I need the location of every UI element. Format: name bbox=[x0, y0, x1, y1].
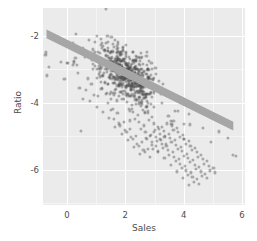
data-point bbox=[122, 121, 125, 124]
data-point bbox=[95, 77, 98, 80]
data-point bbox=[155, 72, 158, 75]
data-point bbox=[144, 95, 147, 98]
data-point bbox=[143, 151, 146, 154]
data-point bbox=[174, 160, 177, 163]
data-point bbox=[178, 135, 181, 138]
data-point bbox=[176, 109, 179, 112]
data-point bbox=[90, 83, 93, 86]
data-point bbox=[181, 150, 184, 153]
data-point bbox=[152, 78, 155, 81]
data-point bbox=[145, 51, 148, 54]
y-tick-label: -2 bbox=[21, 31, 39, 40]
data-point bbox=[189, 171, 192, 174]
data-point bbox=[187, 156, 190, 159]
data-point bbox=[146, 85, 149, 88]
data-point bbox=[93, 94, 96, 97]
data-point bbox=[107, 102, 110, 105]
x-tick-label: 2 bbox=[123, 211, 128, 220]
data-point bbox=[145, 63, 148, 66]
data-point bbox=[152, 147, 155, 150]
x-tick-label: 6 bbox=[239, 211, 244, 220]
data-point bbox=[138, 121, 141, 124]
data-point bbox=[212, 167, 215, 170]
data-point bbox=[175, 126, 178, 129]
data-point bbox=[108, 116, 111, 119]
data-point bbox=[204, 172, 207, 175]
data-point bbox=[160, 101, 163, 104]
data-point bbox=[191, 176, 194, 179]
data-point bbox=[95, 34, 98, 37]
data-point bbox=[196, 178, 199, 181]
data-point bbox=[105, 8, 108, 11]
data-point bbox=[188, 161, 191, 164]
data-point bbox=[170, 141, 173, 144]
data-point bbox=[162, 146, 165, 149]
data-point bbox=[125, 131, 128, 134]
data-point bbox=[141, 63, 144, 66]
data-point bbox=[145, 72, 148, 75]
data-point bbox=[210, 141, 213, 144]
data-point bbox=[100, 87, 103, 90]
data-point bbox=[173, 139, 176, 142]
data-point bbox=[60, 61, 63, 64]
data-point bbox=[151, 143, 154, 146]
data-point bbox=[192, 180, 195, 183]
data-points-layer bbox=[43, 8, 245, 205]
data-point bbox=[147, 147, 150, 150]
data-point bbox=[122, 97, 125, 100]
data-point bbox=[120, 53, 123, 56]
data-point bbox=[194, 146, 197, 149]
data-point bbox=[226, 137, 229, 140]
data-point bbox=[158, 132, 161, 135]
data-point bbox=[158, 127, 161, 130]
data-point bbox=[198, 166, 201, 169]
data-point bbox=[177, 131, 180, 134]
y-tick-label: -6 bbox=[21, 166, 39, 175]
data-point bbox=[167, 114, 170, 117]
data-point bbox=[145, 106, 148, 109]
data-point bbox=[175, 143, 178, 146]
data-point bbox=[185, 152, 188, 155]
data-point bbox=[93, 51, 96, 54]
data-point bbox=[106, 34, 109, 37]
data-point bbox=[87, 38, 90, 41]
data-point bbox=[183, 123, 186, 126]
data-point bbox=[182, 154, 185, 157]
data-point bbox=[166, 122, 169, 125]
data-point bbox=[184, 142, 187, 145]
data-point bbox=[63, 77, 66, 80]
data-point bbox=[141, 98, 144, 101]
data-point bbox=[156, 140, 159, 143]
data-point bbox=[139, 51, 142, 54]
data-point bbox=[104, 93, 107, 96]
data-point bbox=[74, 32, 77, 35]
data-point bbox=[120, 85, 123, 88]
data-point bbox=[81, 47, 84, 50]
data-point bbox=[49, 36, 52, 39]
data-point bbox=[110, 109, 113, 112]
data-point bbox=[187, 140, 190, 143]
data-point bbox=[131, 51, 134, 54]
data-point bbox=[199, 170, 202, 173]
data-point bbox=[175, 170, 178, 173]
data-point bbox=[179, 162, 182, 165]
x-tick-label: 0 bbox=[64, 211, 69, 220]
data-point bbox=[149, 133, 152, 136]
x-axis-title: Sales bbox=[43, 224, 245, 233]
data-point bbox=[148, 155, 151, 158]
data-point bbox=[193, 163, 196, 166]
data-point bbox=[157, 150, 160, 153]
data-point bbox=[172, 129, 175, 132]
x-tick-label: 4 bbox=[181, 211, 186, 220]
data-point bbox=[72, 64, 75, 67]
data-point bbox=[114, 125, 117, 128]
data-point bbox=[195, 151, 198, 154]
data-point bbox=[99, 37, 102, 40]
data-point bbox=[166, 149, 169, 152]
data-point bbox=[186, 173, 189, 176]
data-point bbox=[201, 174, 204, 177]
data-point bbox=[78, 86, 81, 89]
data-point bbox=[196, 155, 199, 158]
plot-panel bbox=[43, 8, 245, 205]
data-point bbox=[157, 79, 160, 82]
